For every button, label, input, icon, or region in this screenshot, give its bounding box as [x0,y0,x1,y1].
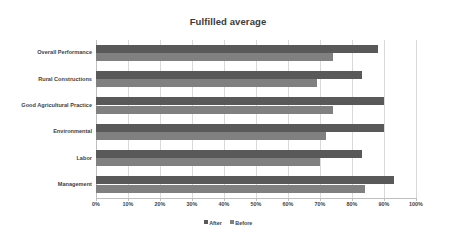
chart-legend: AfterBefore [0,219,456,226]
bar-group [96,93,416,119]
bar-before[interactable] [96,132,326,140]
bar-after[interactable] [96,45,378,53]
bar-group [96,172,416,198]
legend-swatch-icon [204,220,208,224]
bar-after[interactable] [96,97,384,105]
legend-swatch-icon [230,220,234,224]
chart-container: Fulfilled average Overall PerformanceRur… [0,0,456,239]
y-axis-category-label: Good Agricultural Practice [0,102,92,108]
y-axis-category-label: Management [0,181,92,187]
x-axis-tick-label: 100% [396,201,436,207]
bar-after[interactable] [96,124,384,132]
y-axis-category-label: Overall Performance [0,49,92,55]
y-axis-category-label: Environmental [0,128,92,134]
bar-before[interactable] [96,158,320,166]
legend-item-after[interactable]: After [204,219,222,226]
bar-before[interactable] [96,53,333,61]
chart-title: Fulfilled average [0,16,456,27]
y-axis-category-label: Labor [0,155,92,161]
bar-group [96,40,416,66]
bar-group [96,66,416,92]
bar-before[interactable] [96,106,333,114]
legend-label: After [209,220,222,226]
legend-item-before[interactable]: Before [230,219,253,226]
y-axis-category-label: Rural Constructions [0,76,92,82]
bar-after[interactable] [96,71,362,79]
bar-after[interactable] [96,150,362,158]
plot-area [96,40,416,198]
bar-before[interactable] [96,185,365,193]
bar-group [96,119,416,145]
gridline-100% [416,40,417,198]
legend-label: Before [235,220,252,226]
bar-after[interactable] [96,176,394,184]
bar-group [96,145,416,171]
bar-before[interactable] [96,79,317,87]
